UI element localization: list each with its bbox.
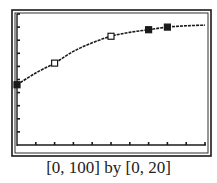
filled-square-point — [14, 82, 20, 88]
open-square-point — [52, 60, 58, 66]
filled-square-point — [146, 27, 152, 33]
filled-square-point — [164, 24, 170, 30]
open-square-point — [108, 33, 114, 39]
chart-plot — [0, 0, 217, 158]
outer-frame — [12, 10, 211, 156]
window-caption: [0, 100] by [0, 20] — [0, 158, 217, 178]
